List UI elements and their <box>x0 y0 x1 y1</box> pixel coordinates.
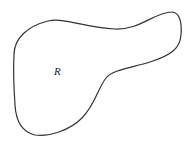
region-label: R <box>54 66 61 77</box>
region-diagram <box>0 0 191 142</box>
region-boundary <box>14 12 182 135</box>
